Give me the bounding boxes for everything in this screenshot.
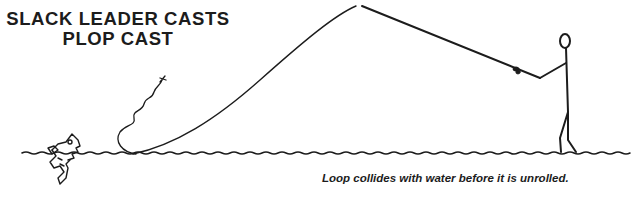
angler-leg-left bbox=[560, 112, 568, 152]
fish-icon bbox=[48, 134, 80, 184]
figure-caption: Loop collides with water before it is un… bbox=[322, 172, 569, 184]
fly-icon bbox=[160, 76, 166, 82]
casting-diagram bbox=[0, 0, 641, 197]
angler-head bbox=[560, 34, 570, 48]
water-surface bbox=[22, 152, 630, 154]
angler-body bbox=[566, 48, 568, 112]
leader bbox=[118, 80, 162, 154]
angler-arm bbox=[540, 63, 566, 78]
reel-handle bbox=[516, 70, 520, 74]
angler-leg-right bbox=[568, 112, 576, 152]
angler-stick-figure bbox=[540, 34, 576, 152]
